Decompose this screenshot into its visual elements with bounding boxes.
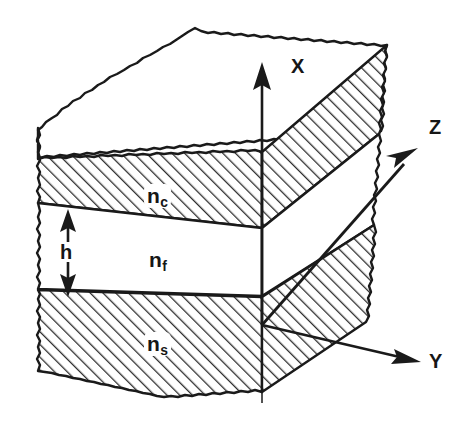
layer-label-cover: nc — [144, 184, 171, 208]
layer-label-film: nf — [146, 248, 169, 272]
layer-label-film-base: n — [149, 248, 162, 271]
waveguide-figure: X Y Z nc nf ns h — [0, 0, 466, 424]
layer-label-substrate-subscript: s — [160, 342, 168, 358]
axis-label-y: Y — [429, 351, 442, 371]
layer-label-substrate-base: n — [147, 332, 160, 355]
solid-block — [37, 28, 387, 403]
layer-label-substrate: ns — [144, 332, 171, 356]
layer-label-film-subscript: f — [162, 258, 167, 274]
layer-label-cover-base: n — [147, 184, 160, 207]
layer-label-cover-subscript: c — [160, 194, 168, 210]
waveguide-drawing — [0, 0, 466, 424]
thickness-label-h: h — [59, 242, 73, 262]
axis-label-x: X — [291, 56, 304, 76]
axis-label-z: Z — [429, 117, 441, 137]
